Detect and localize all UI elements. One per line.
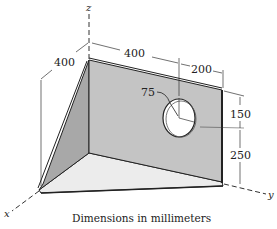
hole-to-bottom-label: 250 <box>230 149 251 162</box>
depth-dimension-label: 400 <box>54 56 75 69</box>
bracket-diagram: z x y 75 400 400 200 150 250 Dimensions … <box>0 0 277 229</box>
z-axis-label: z <box>85 2 92 13</box>
x-axis-label: x <box>4 208 10 219</box>
caption: Dimensions in millimeters <box>72 212 211 224</box>
y-axis-label: y <box>267 189 274 200</box>
hole-to-edge-label: 200 <box>191 63 212 76</box>
x-axis <box>12 191 39 211</box>
hole-diameter-label: 75 <box>141 86 155 99</box>
width-to-hole-label: 400 <box>124 47 145 60</box>
top-to-hole-label: 150 <box>230 108 251 121</box>
y-axis <box>224 184 266 194</box>
